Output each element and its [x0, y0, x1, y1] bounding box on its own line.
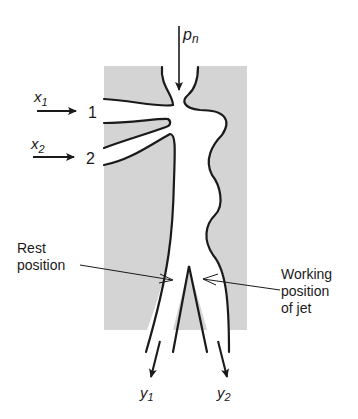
fluidic-diagram: pn x1 x2 1 2 y1 y2 Rest position Working…	[0, 0, 358, 419]
port1-label: 1	[88, 104, 97, 121]
rest-position-label-line2: position	[17, 257, 65, 273]
rest-position-label-line1: Rest	[17, 240, 46, 256]
output2-arrow	[218, 341, 227, 377]
output1-label: y1	[139, 384, 154, 403]
output1-arrow	[151, 341, 160, 377]
control1-label: x1	[33, 88, 48, 108]
port2-label: 2	[86, 150, 95, 167]
working-position-label-line3: of jet	[281, 300, 311, 316]
working-position-label-line2: position	[281, 283, 329, 299]
output2-label: y2	[216, 384, 231, 403]
control2-label: x2	[30, 135, 45, 155]
working-position-label-line1: Working	[281, 266, 332, 282]
supply-label: pn	[182, 26, 199, 46]
